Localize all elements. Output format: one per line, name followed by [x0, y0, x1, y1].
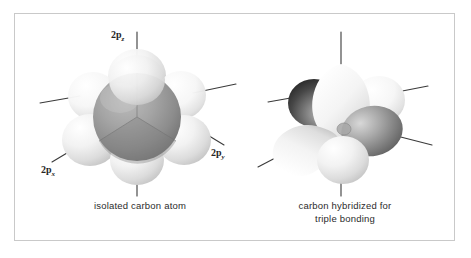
label-2py: 2py	[211, 147, 225, 161]
label-2px-base: 2p	[41, 164, 52, 175]
orbital-figure: 2pz 2px 2py isolated carbon atom carbon …	[0, 0, 471, 258]
p-lobe-front-top	[109, 55, 165, 105]
label-2py-sub: y	[222, 153, 225, 161]
right-orbital-cluster	[258, 32, 432, 196]
left-orbital-cluster	[40, 32, 236, 196]
label-2py-base: 2p	[211, 147, 222, 158]
nucleus-ring	[337, 123, 351, 135]
label-2pz-sub: z	[122, 35, 125, 43]
label-2pz-base: 2p	[111, 29, 122, 40]
caption-hybridized-carbon: carbon hybridized for triple bonding	[265, 199, 425, 225]
p-lobe-pale-bottom	[317, 136, 369, 184]
label-2pz: 2pz	[111, 29, 124, 43]
label-2px-sub: x	[52, 170, 56, 178]
label-2px: 2px	[41, 164, 55, 178]
caption-isolated-carbon-atom: isolated carbon atom	[60, 199, 220, 212]
